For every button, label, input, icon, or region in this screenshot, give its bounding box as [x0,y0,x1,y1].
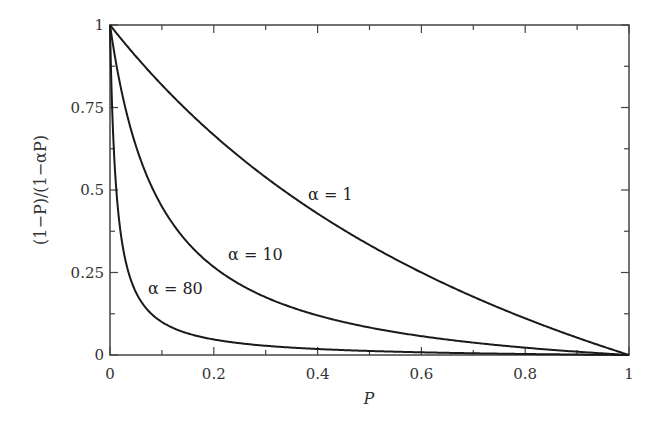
chart: 00.20.40.60.8100.250.50.751 P (1−P)/(1−α… [0,0,662,426]
curve-label-alpha-1: α = 1 [308,185,353,204]
x-tick-label: 0.6 [409,365,433,383]
curve-alpha-80 [110,25,629,355]
y-tick-label: 0.25 [71,264,104,282]
curve-label-alpha-10: α = 10 [228,245,283,264]
x-tick-label: 0 [105,365,115,383]
y-tick-label: 0.5 [80,181,104,199]
x-axis-title: P [363,389,375,408]
curves [110,25,629,355]
y-axis-title: (1−P)/(1−αP) [31,135,50,245]
curve-alpha-1 [110,25,629,355]
y-tick-label: 0 [94,346,104,364]
plot-frame [110,25,629,355]
x-tick-label: 0.8 [513,365,537,383]
curve-alpha-10 [110,25,629,355]
x-tick-label: 1 [624,365,634,383]
y-tick-label: 1 [94,16,104,34]
x-tick-label: 0.2 [202,365,226,383]
y-tick-label: 0.75 [71,99,104,117]
x-tick-label: 0.4 [306,365,330,383]
curve-label-alpha-80: α = 80 [148,279,203,298]
